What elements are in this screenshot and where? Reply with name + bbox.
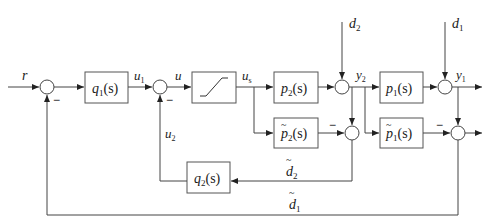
u1-label: u1	[134, 68, 145, 85]
summing-junction-2	[153, 80, 167, 94]
summing-junction-4	[345, 126, 359, 140]
summing-junction-5	[438, 80, 452, 94]
block-diagram: r − q1(s) u1 − u us p2(s) p2(s) ~ d2 y2 …	[0, 0, 496, 222]
minus-sign-4: −	[436, 118, 443, 132]
d2-estimate-label: d2	[286, 164, 298, 181]
q2-label: q2(s)	[194, 171, 221, 188]
u-label: u	[175, 68, 182, 83]
minus-sign-1: −	[53, 93, 60, 107]
line-y2-p1model	[365, 87, 379, 133]
d1-estimate-tilde: ~	[289, 187, 295, 198]
d2-estimate-tilde: ~	[286, 154, 292, 165]
p1-model-tilde: ~	[386, 119, 392, 130]
y2-label: y2	[354, 67, 366, 84]
p2-model-tilde: ~	[281, 119, 287, 130]
u2-label: u2	[165, 126, 176, 143]
minus-sign-2: −	[166, 93, 173, 107]
line-d1est-sum1	[47, 95, 458, 215]
q1-label: q1(s)	[92, 81, 119, 98]
d2-label: d2	[349, 16, 361, 33]
summing-junction-1	[40, 80, 54, 94]
reference-label: r	[22, 68, 28, 83]
p2-label: p2(s)	[280, 81, 308, 98]
minus-sign-3: −	[329, 118, 336, 132]
y1-label: y1	[454, 67, 466, 84]
us-label: us	[242, 68, 252, 85]
d1-estimate-label: d1	[289, 197, 301, 214]
summing-junction-6	[451, 126, 465, 140]
line-us-p2model	[254, 87, 273, 133]
p1-label: p1(s)	[385, 81, 413, 98]
d1-label: d1	[452, 16, 464, 33]
summing-junction-3	[335, 80, 349, 94]
